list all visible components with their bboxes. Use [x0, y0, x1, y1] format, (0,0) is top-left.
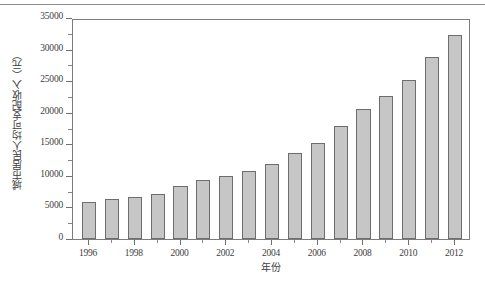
y-axis: 05000100001500020000250003000035000 — [0, 0, 72, 285]
x-axis-tick-label: 2002 — [216, 248, 234, 259]
y-axis-tick-label: 15000 — [40, 137, 63, 147]
bar — [334, 126, 348, 239]
chart-figure: 城市居民人均可支配收入（元） 0500010000150002000025000… — [0, 0, 485, 285]
x-axis-minor-tick-mark — [157, 240, 158, 243]
bar — [219, 176, 233, 239]
bar — [265, 164, 279, 239]
bar — [425, 57, 439, 239]
bar — [196, 180, 210, 239]
x-axis-tick-mark — [180, 240, 181, 245]
bar — [242, 171, 256, 239]
x-axis-tick-label: 2006 — [308, 248, 326, 259]
x-axis-tick-mark — [317, 240, 318, 245]
bar — [128, 197, 142, 239]
y-axis-tick-label: 0 — [58, 232, 63, 242]
y-axis-tick-label: 25000 — [40, 74, 63, 84]
bar-series — [73, 20, 469, 239]
y-axis-tick-label: 35000 — [40, 11, 63, 21]
x-axis-tick-mark — [408, 240, 409, 245]
bar — [173, 186, 187, 239]
y-axis-tick-label: 5000 — [45, 200, 63, 210]
x-axis-title: 年份 — [72, 262, 470, 274]
x-axis-tick-mark — [88, 240, 89, 245]
y-axis-tick-label: 30000 — [40, 43, 63, 53]
x-axis-tick-label: 2010 — [399, 248, 417, 259]
x-axis-tick-mark — [454, 240, 455, 245]
x-axis-tick-mark — [271, 240, 272, 245]
x-axis-tick-label: 2004 — [262, 248, 280, 259]
x-axis-tick-label: 2012 — [445, 248, 463, 259]
x-axis-tick-label: 2000 — [170, 248, 188, 259]
bar — [379, 96, 393, 239]
x-axis-minor-tick-mark — [202, 240, 203, 243]
top-divider-rule — [0, 4, 485, 5]
bar — [151, 194, 165, 239]
x-axis-minor-tick-mark — [248, 240, 249, 243]
bar — [356, 109, 370, 239]
y-axis-tick-label: 20000 — [40, 106, 63, 116]
bar — [402, 80, 416, 239]
x-axis-tick-mark — [225, 240, 226, 245]
x-axis-minor-tick-mark — [294, 240, 295, 243]
x-axis-minor-tick-mark — [431, 240, 432, 243]
x-axis-minor-tick-mark — [111, 240, 112, 243]
x-axis-tick-label: 2008 — [353, 248, 371, 259]
y-axis-tick-label: 10000 — [40, 169, 63, 179]
bar — [82, 202, 96, 239]
plot-area — [72, 19, 470, 240]
bar — [105, 199, 119, 239]
x-axis-tick-mark — [134, 240, 135, 245]
x-axis-minor-tick-mark — [385, 240, 386, 243]
bar — [288, 153, 302, 239]
x-axis-minor-tick-mark — [340, 240, 341, 243]
x-axis-tick-label: 1998 — [125, 248, 143, 259]
bar — [311, 143, 325, 239]
bar — [448, 35, 462, 239]
x-axis-tick-mark — [362, 240, 363, 245]
x-axis-tick-label: 1996 — [79, 248, 97, 259]
